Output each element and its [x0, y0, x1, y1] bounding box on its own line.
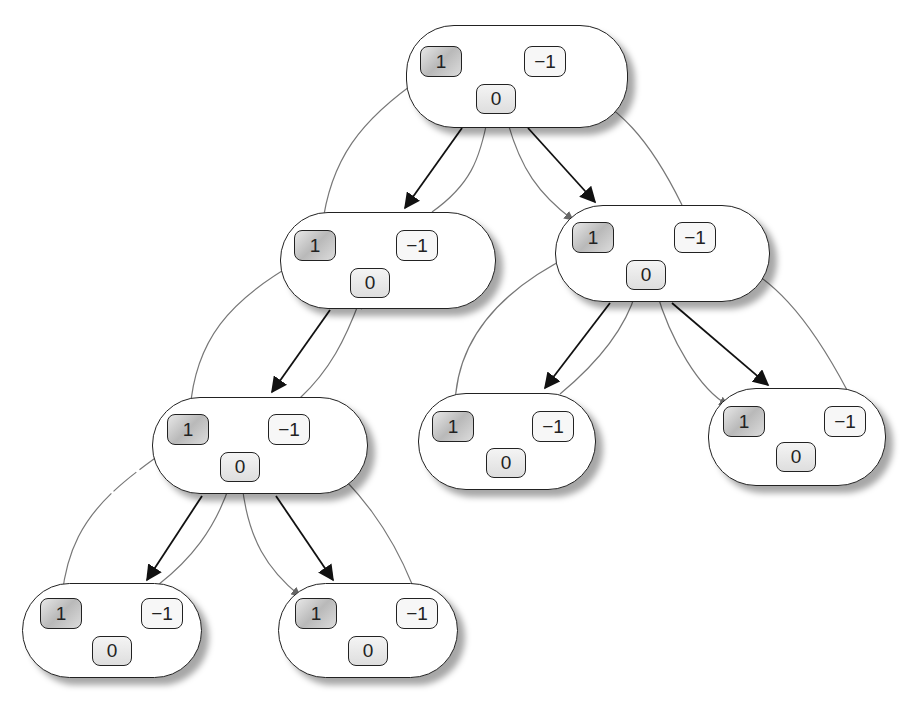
cell-positive: 1: [294, 230, 336, 261]
cell-zero: 0: [92, 636, 132, 666]
cell-negative: −1: [524, 46, 566, 77]
cell-zero: 0: [220, 452, 260, 482]
cell-negative: −1: [141, 598, 183, 629]
thread-edges: [62, 77, 847, 655]
tree-node-root: 1 −1 0: [406, 25, 628, 128]
cell-negative: −1: [824, 406, 866, 437]
cell-negative: −1: [396, 230, 438, 261]
cell-positive: 1: [432, 411, 474, 442]
tree-node-l3-right: 1 −1 0: [278, 583, 458, 678]
cell-negative: −1: [268, 414, 310, 445]
tree-edges: [147, 128, 768, 580]
cell-negative: −1: [532, 411, 574, 442]
cell-negative: −1: [674, 222, 716, 253]
cell-positive: 1: [295, 598, 337, 629]
cell-positive: 1: [40, 598, 82, 629]
cell-positive: 1: [572, 222, 614, 253]
cell-positive: 1: [420, 46, 462, 77]
cell-zero: 0: [626, 260, 666, 290]
cell-zero: 0: [486, 448, 526, 478]
cell-zero: 0: [476, 84, 516, 114]
cell-positive: 1: [167, 414, 209, 445]
tree-node-l1-right: 1 −1 0: [555, 205, 770, 302]
tree-node-l1-left: 1 −1 0: [280, 212, 496, 309]
cell-positive: 1: [723, 406, 765, 437]
tree-node-l2-right: 1 −1 0: [708, 388, 886, 486]
tree-node-l2-mid: 1 −1 0: [418, 393, 596, 490]
cell-negative: −1: [396, 598, 438, 629]
cell-zero: 0: [350, 268, 390, 298]
tree-diagram: 1 −1 0 1 −1 0 1 −1 0 1 −1 0 1 −1 0 1 −1 …: [0, 0, 911, 714]
cell-zero: 0: [776, 442, 816, 472]
tree-node-l2-left: 1 −1 0: [152, 397, 368, 494]
cell-zero: 0: [348, 636, 388, 666]
tree-node-l3-left: 1 −1 0: [22, 583, 202, 678]
